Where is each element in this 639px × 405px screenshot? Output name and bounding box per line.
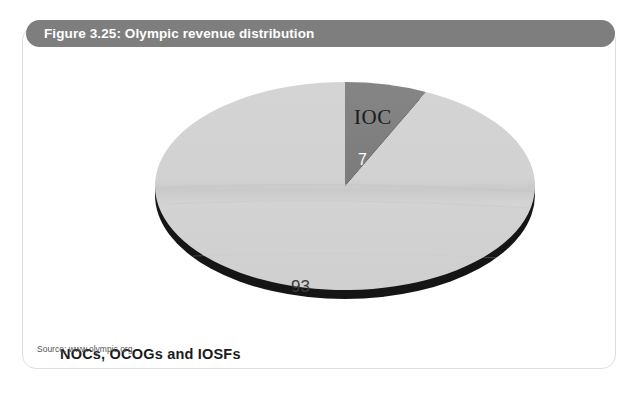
page-title: Figure 3.25: Olympic revenue distributio…: [44, 20, 314, 47]
pie-value-ioc: 7: [358, 151, 367, 169]
source-note: Source: www.olympic.org: [37, 344, 132, 354]
pie-value-nocs: 93: [291, 277, 310, 297]
figure-title-bar: Figure 3.25: Olympic revenue distributio…: [26, 20, 615, 47]
pie-chart-svg: [133, 80, 553, 350]
pie-label-ioc: IOC: [354, 105, 392, 130]
pie-chart: IOC 7 93 NOCs, OCOGs and IOSFs: [23, 48, 615, 368]
figure-root: Figure 3.25: Olympic revenue distributio…: [0, 0, 639, 405]
